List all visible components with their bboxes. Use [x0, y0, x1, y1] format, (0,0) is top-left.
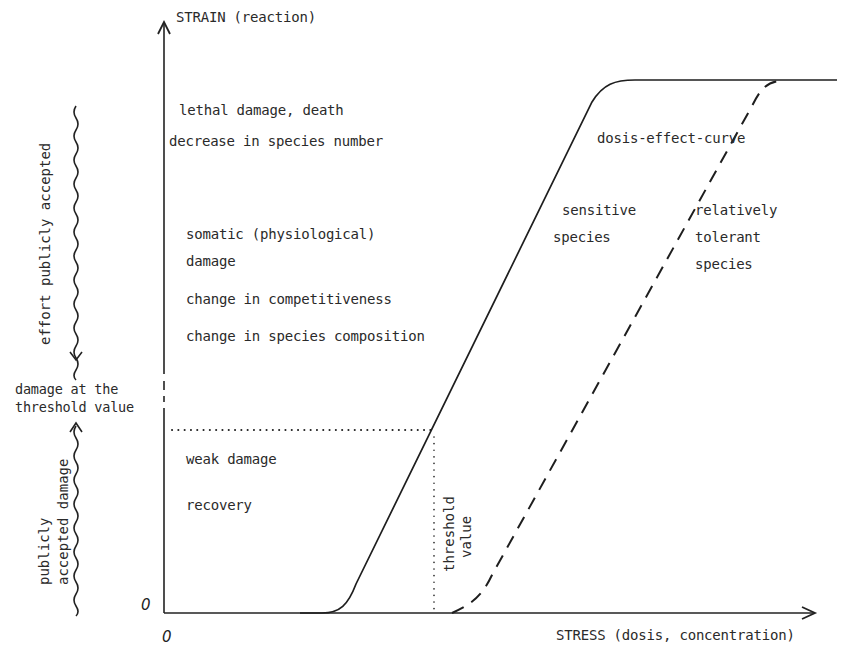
- x-origin-label: 0: [162, 628, 172, 646]
- threshold-damage-label-1: damage at the: [15, 380, 118, 398]
- level-weak: weak damage: [186, 450, 277, 468]
- sensitive-label-2: species: [553, 228, 611, 246]
- threshold-label-2: value: [458, 516, 474, 558]
- tolerant-species-curve: [452, 81, 780, 613]
- x-axis: [164, 607, 815, 619]
- tolerant-label-3: species: [695, 255, 753, 273]
- level-composition: change in species composition: [186, 327, 425, 345]
- tolerant-label-1: relatively: [695, 201, 777, 219]
- x-axis-label: STRESS (dosis, concentration): [556, 626, 795, 644]
- threshold-damage-label-2: threshold value: [15, 398, 134, 416]
- tolerant-label-2: tolerant: [695, 228, 761, 246]
- diagram-canvas: [0, 0, 855, 658]
- y-origin-label: 0: [141, 596, 151, 614]
- wavy-arrow-accepted: [70, 423, 82, 616]
- accepted-damage-label-1: publicly: [36, 518, 52, 585]
- level-competitiveness: change in competitiveness: [186, 290, 392, 308]
- level-somatic-2: damage: [186, 252, 235, 270]
- dosis-effect-curve-label: dosis-effect-curve: [597, 129, 745, 147]
- sensitive-species-curve: [300, 80, 837, 613]
- threshold-label-1: threshold: [441, 496, 457, 572]
- y-axis-label: STRAIN (reaction): [176, 8, 316, 26]
- level-lethal: lethal damage, death: [179, 101, 344, 119]
- effort-accepted-label: effort publicly accepted: [37, 143, 53, 345]
- accepted-damage-label-2: accepted damage: [55, 459, 71, 585]
- level-recovery: recovery: [186, 496, 252, 514]
- level-decrease: decrease in species number: [169, 132, 383, 150]
- y-axis: [158, 22, 170, 613]
- wavy-arrow-effort: [70, 106, 82, 380]
- sensitive-label-1: sensitive: [562, 201, 636, 219]
- level-somatic-1: somatic (physiological): [186, 225, 375, 243]
